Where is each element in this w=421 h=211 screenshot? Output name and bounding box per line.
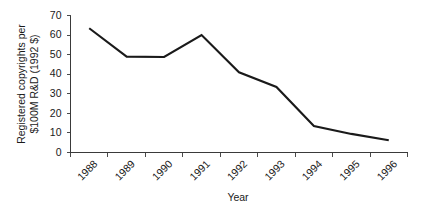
x-axis-tick-label: 1994 xyxy=(299,157,324,182)
x-axis-tick-label: 1995 xyxy=(337,157,362,182)
y-axis-tick-marks xyxy=(67,16,71,153)
x-axis-tick-marks xyxy=(71,153,408,157)
y-axis-tick-label: 30 xyxy=(50,87,62,99)
x-axis-tick-label: 1996 xyxy=(374,157,399,182)
y-axis-tick-label: 70 xyxy=(50,9,62,21)
x-axis-tick-label: 1988 xyxy=(75,157,100,182)
x-axis-tick-label: 1990 xyxy=(150,157,175,182)
y-axis-tick-label: 20 xyxy=(50,107,62,119)
data-series-line xyxy=(89,28,389,140)
y-axis-tick-label: 0 xyxy=(56,146,62,158)
y-axis-tick-label: 10 xyxy=(50,126,62,138)
y-axis-tick-label: 60 xyxy=(50,28,62,40)
y-axis-tick-labels: 010203040506070 xyxy=(50,9,62,158)
chart-container: Registered copyrights per $100M R&D (199… xyxy=(0,0,421,211)
y-axis-title-line-2: $100M R&D (1992 $) xyxy=(28,34,40,133)
x-axis-tick-label: 1991 xyxy=(187,157,212,182)
y-axis-title-line-1: Registered copyrights per xyxy=(15,24,27,144)
x-axis-tick-label: 1992 xyxy=(224,157,249,182)
x-axis-title: Year xyxy=(227,191,249,203)
x-axis-tick-label: 1993 xyxy=(262,157,287,182)
x-axis-tick-label: 1989 xyxy=(112,157,137,182)
y-axis-tick-label: 50 xyxy=(50,48,62,60)
x-axis-tick-labels: 198819891990199119921993199419951996 xyxy=(75,157,400,182)
y-axis-title-group: Registered copyrights per $100M R&D (199… xyxy=(15,24,40,144)
y-axis-tick-label: 40 xyxy=(50,67,62,79)
line-chart: Registered copyrights per $100M R&D (199… xyxy=(0,0,421,211)
